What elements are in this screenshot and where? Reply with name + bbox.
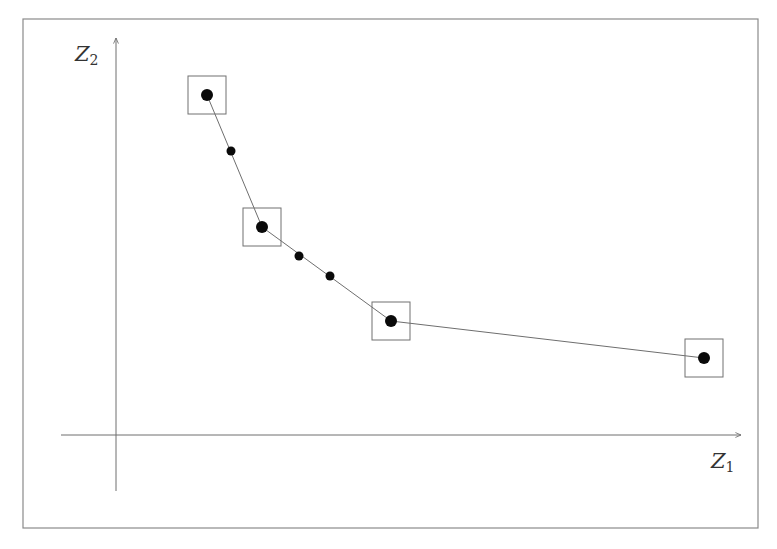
diagram-frame <box>23 19 758 528</box>
supported-point-C <box>385 315 397 327</box>
y-axis-label-sub: 2 <box>90 52 99 68</box>
supported-point-A <box>201 89 213 101</box>
diagram-canvas: Z2 Z1 <box>0 0 777 549</box>
x-axis-label-main: Z <box>711 449 726 473</box>
x-axis-label-sub: 1 <box>726 459 735 475</box>
y-axis-label-main: Z <box>75 42 90 66</box>
supported-point-B <box>256 221 268 233</box>
frontier-polyline <box>207 95 704 358</box>
supported-point-boxes <box>188 76 723 377</box>
intermediate-point-2 <box>295 252 304 261</box>
supported-point-D <box>698 352 710 364</box>
frontier-points <box>201 89 710 364</box>
x-axis-label: Z1 <box>711 451 735 474</box>
intermediate-point-1 <box>227 147 236 156</box>
y-axis-label: Z2 <box>75 44 99 67</box>
intermediate-point-3 <box>326 272 335 281</box>
pareto-frontier-diagram <box>0 0 777 549</box>
